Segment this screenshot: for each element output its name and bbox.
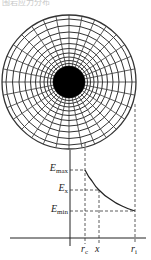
radial-line bbox=[7, 88, 54, 108]
polar-grid bbox=[2, 15, 136, 149]
radial-line bbox=[43, 97, 63, 144]
modulus-decay-curve bbox=[85, 170, 135, 211]
radial-line bbox=[75, 97, 95, 144]
label-ex: Ex bbox=[58, 183, 68, 195]
radial-line bbox=[7, 56, 54, 76]
label-ri: ri bbox=[131, 244, 137, 256]
radial-line bbox=[75, 20, 95, 67]
label-x: x bbox=[95, 244, 99, 254]
label-emin: Emin bbox=[51, 204, 68, 216]
radial-line bbox=[84, 88, 131, 108]
radial-line bbox=[84, 56, 131, 76]
radial-line bbox=[43, 20, 63, 67]
axes bbox=[10, 150, 146, 246]
label-emax: Emax bbox=[50, 163, 68, 175]
label-rc: rc bbox=[81, 244, 88, 256]
tunnel-core bbox=[53, 66, 85, 98]
diagram-canvas bbox=[0, 0, 151, 260]
